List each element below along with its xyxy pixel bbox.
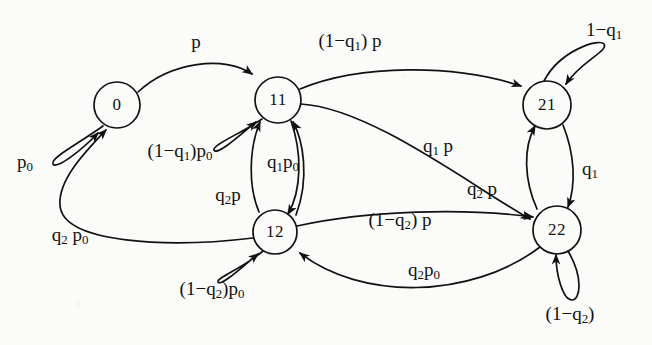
edge-0-to-11 [138,63,252,92]
edge-label-11-to-11: (1−q1)p0 [148,140,213,165]
edge-label-21-to-22: q1 [582,158,598,183]
node-label-11: 11 [269,90,286,110]
edge-label-12-to-12: (1−q2)p0 [180,278,245,303]
edge-label-0-to-0: p0 [17,151,33,176]
edge-22-to-21 [527,126,537,209]
node-label-22: 22 [548,220,566,240]
node-label-0: 0 [113,95,122,115]
node-label-12: 12 [266,222,284,242]
edge-21-self-loop [544,43,605,84]
node-label-21: 21 [538,95,556,115]
edge-0-self-loop [53,126,103,165]
edge-22-self-loop [556,251,579,300]
edge-label-12-to-22: (1−q2) p [368,209,431,234]
edge-12-to-11 [251,122,260,212]
edge-label-22-to-22: (1−q2) [546,303,595,328]
state-transition-diagram: 0 11 21 12 22 pp0(1−q1)p0(1−q1) pq1 pq1p… [0,0,652,345]
edge-21-to-22 [563,125,573,207]
edge-label-11-to-22: q1 p [423,135,453,160]
edge-label-12-to-0: q2 p0 [52,224,89,249]
edge-label-11-to-21: (1−q1) p [318,30,381,55]
edge-label-22-to-12: q2p0 [408,259,440,284]
edge-label-21-to-21: 1−q1 [586,19,622,44]
edge-label-12-to-11: q2p [215,184,240,209]
edge-label-0-to-11: p [191,31,201,53]
edge-label-11-to-12: q1p0 [267,151,299,176]
edge-label-22-to-21: q2 p [467,178,497,203]
edge-11-to-21 [300,70,521,89]
